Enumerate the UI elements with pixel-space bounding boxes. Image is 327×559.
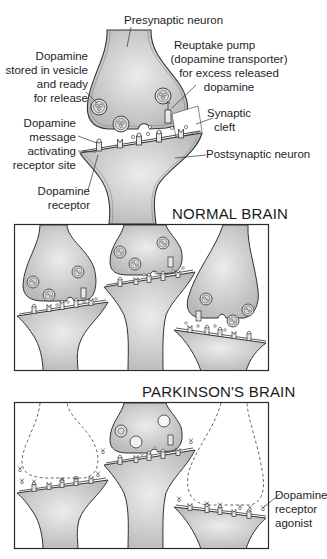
parkinsons-brain-title: PARKINSON'S BRAIN [142, 383, 296, 400]
reuptake-pump-icon [165, 110, 171, 123]
normal-brain-panel [17, 225, 266, 371]
degenerated-neuron-outline [187, 403, 263, 505]
label-vesicle: Dopamine stored in vesicle and ready for… [0, 49, 88, 105]
receptor-icon [118, 139, 123, 148]
label-dopamine-receptor: Dopamine receptor [0, 184, 90, 212]
label-dopamine-receptor-agonist: Dopamine receptor agonist [275, 488, 327, 530]
vesicle-icon [91, 99, 107, 115]
label-reuptake-pump: Reuptake pump (dopamine transporter) for… [168, 38, 290, 94]
normal-brain-title: NORMAL BRAIN [172, 205, 288, 222]
receptor-icon [137, 133, 142, 145]
parkinsons-brain-panel [17, 403, 266, 549]
label-presynaptic-neuron: Presynaptic neuron [124, 13, 223, 27]
label-postsynaptic-neuron: Postsynaptic neuron [206, 147, 310, 161]
degenerated-neuron-outline [22, 403, 98, 478]
receptor-icon [157, 130, 162, 142]
vesicle-icon [113, 116, 129, 132]
receptor-icon [97, 139, 102, 151]
label-dopamine-message: Dopamine message activating receptor sit… [0, 116, 76, 172]
label-synaptic-cleft: Synaptic cleft [207, 106, 251, 134]
